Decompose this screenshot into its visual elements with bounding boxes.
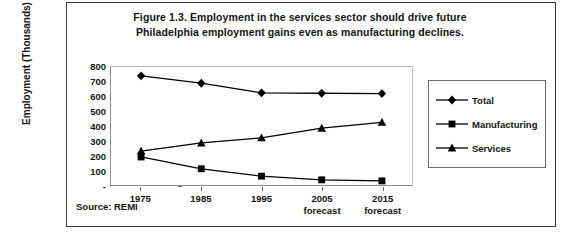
series-services bbox=[137, 118, 386, 155]
diamond-marker bbox=[137, 71, 145, 80]
square-marker bbox=[258, 173, 265, 180]
x-tick-label: 2005forecast bbox=[287, 193, 357, 217]
figure-screenshot: Figure 1.3. Employment in the services s… bbox=[0, 0, 582, 240]
source-note: Source: REMI bbox=[76, 201, 138, 212]
diamond-marker bbox=[318, 89, 326, 98]
series-total bbox=[137, 71, 386, 98]
chart-legend: TotalManufacturingServices bbox=[428, 80, 546, 168]
x-tick-year: 1995 bbox=[227, 193, 297, 205]
x-tick-note: forecast bbox=[348, 205, 418, 217]
y-axis-label: Employment (Thousands) bbox=[21, 0, 32, 134]
x-tick-label: 2015forecast bbox=[348, 193, 418, 217]
diamond-marker bbox=[448, 96, 456, 105]
figure-title-line-2: Philadelphia employment gains even as ma… bbox=[90, 25, 510, 40]
y-tick-label: 500 bbox=[72, 106, 106, 117]
x-tick-mark bbox=[383, 187, 384, 191]
chart-svg bbox=[111, 67, 412, 185]
x-tick-note: forecast bbox=[287, 205, 357, 217]
square-marker bbox=[449, 121, 456, 128]
figure-title-line-1: Figure 1.3. Employment in the services s… bbox=[90, 10, 510, 25]
y-axis-tick-labels: 800700600500400300200100- bbox=[72, 62, 106, 190]
x-tick-label: 1995 bbox=[227, 193, 297, 205]
legend-item-total[interactable]: Total bbox=[435, 89, 543, 111]
triangle-marker bbox=[378, 118, 387, 126]
square-marker bbox=[318, 176, 325, 183]
square-marker bbox=[198, 165, 205, 172]
x-tick-year: 1985 bbox=[166, 193, 236, 205]
x-tick-label: 1985 bbox=[166, 193, 236, 205]
plot-area bbox=[110, 66, 413, 186]
x-tick-mark bbox=[140, 187, 141, 191]
y-tick-label: 800 bbox=[72, 61, 106, 72]
diamond-marker bbox=[257, 88, 265, 97]
figure-title: Figure 1.3. Employment in the services s… bbox=[90, 10, 510, 40]
x-axis-tick-labels: 1975198519952005forecast2015forecast bbox=[110, 187, 413, 227]
x-tick-mark bbox=[322, 187, 323, 191]
square-marker bbox=[378, 177, 385, 184]
legend-item-services[interactable]: Services bbox=[435, 137, 543, 159]
square-marker bbox=[138, 154, 145, 161]
legend-label: Services bbox=[472, 143, 511, 154]
legend-label: Total bbox=[472, 95, 494, 106]
legend-marker bbox=[435, 141, 469, 155]
series-group bbox=[137, 71, 386, 184]
legend-item-manufacturing[interactable]: Manufacturing bbox=[435, 113, 543, 135]
legend-label: Manufacturing bbox=[472, 119, 537, 130]
series-manufacturing bbox=[138, 154, 386, 185]
x-tick-mark bbox=[262, 187, 263, 191]
diamond-marker bbox=[378, 89, 386, 98]
y-tick-label: 100 bbox=[72, 166, 106, 177]
y-tick-label: 300 bbox=[72, 136, 106, 147]
y-tick-label: 200 bbox=[72, 151, 106, 162]
legend-marker bbox=[435, 117, 469, 131]
y-tick-label: 700 bbox=[72, 76, 106, 87]
x-tick-year: 2015 bbox=[348, 193, 418, 205]
x-tick-year: 2005 bbox=[287, 193, 357, 205]
legend-marker bbox=[435, 93, 469, 107]
y-tick-label: 600 bbox=[72, 91, 106, 102]
diamond-marker bbox=[197, 79, 205, 88]
y-tick-label: - bbox=[72, 181, 106, 192]
x-tick-mark bbox=[201, 187, 202, 191]
y-tick-label: 400 bbox=[72, 121, 106, 132]
